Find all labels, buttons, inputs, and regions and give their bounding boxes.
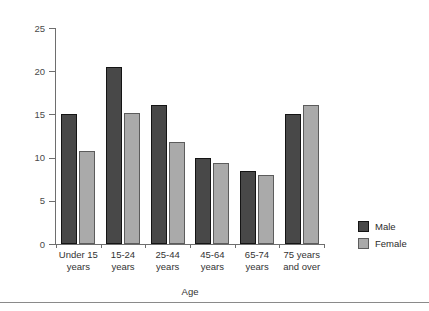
x-axis-title: Age bbox=[56, 287, 324, 297]
bar-group bbox=[56, 28, 101, 244]
x-axis-tick bbox=[101, 244, 102, 248]
y-axis-tick: 0 bbox=[49, 244, 55, 245]
x-axis-tick-labels: Under 15years15-24years25-44years45-64ye… bbox=[56, 249, 324, 272]
legend-item-male[interactable]: Male bbox=[358, 218, 407, 235]
bar-groups bbox=[56, 28, 324, 244]
bar-female[interactable] bbox=[79, 151, 95, 244]
bottom-divider bbox=[0, 302, 429, 303]
x-axis-tick-label: 45-64years bbox=[190, 249, 235, 272]
x-axis-tick bbox=[324, 244, 325, 248]
x-axis-tick bbox=[145, 244, 146, 248]
bar-group bbox=[145, 28, 190, 244]
y-axis-tick: 10 bbox=[49, 158, 55, 159]
bar-female[interactable] bbox=[169, 142, 185, 244]
y-axis-tick-label: 10 bbox=[34, 153, 45, 163]
bar-group bbox=[235, 28, 280, 244]
bar-male[interactable] bbox=[61, 114, 77, 244]
y-axis-tick-label: 15 bbox=[34, 110, 45, 120]
legend-swatch-male-icon bbox=[358, 221, 369, 232]
x-axis-tick bbox=[279, 244, 280, 248]
y-axis-tick-label: 20 bbox=[34, 67, 45, 77]
x-axis-tick-label: 75 yearsand over bbox=[279, 249, 324, 272]
x-axis-tick-label: Under 15years bbox=[56, 249, 101, 272]
legend-label: Female bbox=[375, 239, 407, 249]
y-axis-tick-label: 5 bbox=[40, 197, 45, 207]
bar-male[interactable] bbox=[151, 105, 167, 244]
bar-male[interactable] bbox=[106, 67, 122, 244]
x-axis-tick-label: 15-24years bbox=[101, 249, 146, 272]
bar-group bbox=[101, 28, 146, 244]
bar-group bbox=[190, 28, 235, 244]
bar-female[interactable] bbox=[303, 105, 319, 244]
y-axis-tick: 15 bbox=[49, 114, 55, 115]
y-axis-tick-label: 25 bbox=[34, 24, 45, 34]
legend-swatch-female-icon bbox=[358, 238, 369, 249]
bar-female[interactable] bbox=[258, 175, 274, 244]
x-axis-tick bbox=[190, 244, 191, 248]
bar-male[interactable] bbox=[195, 158, 211, 244]
y-axis-tick: 20 bbox=[49, 71, 55, 72]
bar-male[interactable] bbox=[240, 171, 256, 244]
bar-female[interactable] bbox=[124, 113, 140, 244]
y-axis-tick: 5 bbox=[49, 201, 55, 202]
legend: MaleFemale bbox=[358, 218, 407, 252]
bar-group bbox=[279, 28, 324, 244]
figure: 0510152025 Rate per 100 population Under… bbox=[0, 0, 429, 311]
y-axis-tick: 25 bbox=[49, 28, 55, 29]
legend-label: Male bbox=[375, 222, 396, 232]
y-axis-tick-label: 0 bbox=[40, 240, 45, 250]
bar-male[interactable] bbox=[285, 114, 301, 244]
x-axis-tick bbox=[56, 244, 57, 248]
legend-item-female[interactable]: Female bbox=[358, 235, 407, 252]
x-axis-tick-label: 25-44years bbox=[145, 249, 190, 272]
x-axis-tick bbox=[235, 244, 236, 248]
bar-female[interactable] bbox=[213, 163, 229, 244]
x-axis-tick-label: 65-74years bbox=[235, 249, 280, 272]
